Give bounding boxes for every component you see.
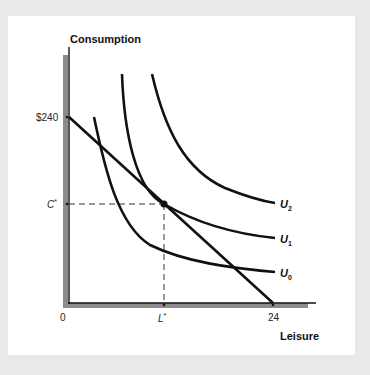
indifference-curve-u2: [152, 74, 275, 203]
x-max-label: 24: [268, 312, 280, 323]
x-axis-title: Leisure: [280, 330, 319, 342]
l-star-label: L*: [158, 312, 167, 324]
x-max-tick: [272, 304, 275, 307]
u0-label: U0: [280, 267, 292, 281]
indifference-curve-u0: [94, 117, 275, 272]
u1-label: U1: [280, 233, 292, 247]
indifference-curve-u1: [122, 74, 275, 238]
optimum-point: [161, 201, 168, 208]
y-axis-shadow: [63, 55, 68, 308]
c-star-label: C*: [47, 198, 57, 210]
indifference-curve-chart: Consumption Leisure $240 0 24 C* L* U2 U…: [0, 0, 370, 375]
l-star-tick: [163, 304, 166, 307]
origin-label: 0: [60, 312, 66, 323]
u2-label: U2: [280, 198, 292, 212]
y-max-tick: [66, 116, 69, 119]
c-star-tick: [66, 203, 69, 206]
y-max-label: $240: [36, 112, 59, 123]
x-axis-shadow: [63, 303, 308, 308]
y-axis-title: Consumption: [70, 33, 141, 45]
